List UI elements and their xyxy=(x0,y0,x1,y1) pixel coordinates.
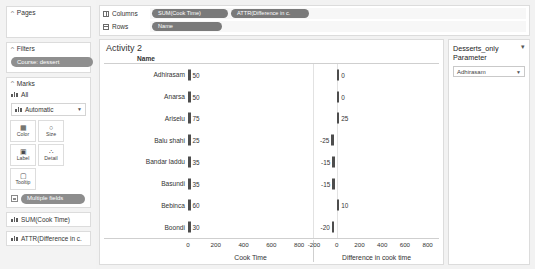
pages-card: ^ Pages xyxy=(6,6,91,38)
bar-value-label: 0 xyxy=(341,93,345,100)
axes-container: 0200400600800Cook Time-2000200400600800D… xyxy=(188,240,439,262)
measure-pill-sum-cook-time[interactable]: SUM(Cook Time) xyxy=(6,212,91,227)
axis-tick: 0 xyxy=(335,241,338,248)
bar[interactable] xyxy=(337,91,340,102)
filters-label: Filters xyxy=(17,45,35,52)
bar-row[interactable]: 0 xyxy=(314,86,439,108)
bar[interactable] xyxy=(188,178,191,189)
marks-tooltip-button[interactable]: ▢ Tooltip xyxy=(10,168,36,190)
measure-label: ATTR(Difference in c. xyxy=(21,235,82,242)
bar-row[interactable]: 0 xyxy=(314,64,439,86)
detail-field-icon xyxy=(11,195,18,202)
rows-pill-name[interactable]: Name xyxy=(152,22,222,30)
bar[interactable] xyxy=(337,200,340,211)
columns-pill-sum-cook-time[interactable]: SUM(Cook Time) xyxy=(152,9,228,17)
row-label: Adhirasam xyxy=(104,64,188,86)
bar[interactable] xyxy=(188,69,191,80)
parameter-panel: ▾ Desserts_only Parameter Adhirasam ▼ xyxy=(448,39,530,265)
bar[interactable] xyxy=(332,222,335,233)
bar-value-label: -15 xyxy=(321,158,330,165)
bar[interactable] xyxy=(332,156,335,167)
pages-drop-zone[interactable] xyxy=(7,18,90,37)
filters-drop-zone[interactable]: Course: dessert xyxy=(7,54,90,72)
marks-color-button[interactable]: ▦ Color xyxy=(10,120,36,142)
chart-body: AdhirasamAnarsaAriseluBalu shahiBandar l… xyxy=(104,64,439,238)
row-label: Bandar laddu xyxy=(104,151,188,173)
bar[interactable] xyxy=(188,135,191,146)
row-label: Basundi xyxy=(104,173,188,195)
bar-value-label: 35 xyxy=(193,180,200,187)
marks-multiple-fields-row[interactable]: Multiple fields xyxy=(7,192,90,207)
mark-type-dropdown[interactable]: Automatic ▼ xyxy=(11,103,86,116)
bar-value-label: 25 xyxy=(341,115,348,122)
axis-tick: -200 xyxy=(308,241,320,248)
chevron-up-icon: ^ xyxy=(11,46,14,52)
visualization-pane: Activity 2 Name AdhirasamAnarsaAriseluBa… xyxy=(99,39,444,265)
bar-row[interactable]: -20 xyxy=(314,216,439,238)
measure-label: SUM(Cook Time) xyxy=(21,216,70,223)
marks-card-header[interactable]: ^ Marks xyxy=(7,78,90,89)
bar-row[interactable]: 50 xyxy=(188,86,313,108)
chevron-up-icon: ^ xyxy=(11,10,14,16)
bar-row[interactable]: 25 xyxy=(188,129,313,151)
marks-detail-button[interactable]: ∴ Detail xyxy=(38,144,64,166)
bar-chart-icon xyxy=(11,235,18,241)
marks-color-label: Color xyxy=(17,132,29,137)
bar-row[interactable]: 25 xyxy=(314,108,439,130)
bar-row[interactable]: 35 xyxy=(188,173,313,195)
bar-value-label: 60 xyxy=(193,202,200,209)
rows-icon xyxy=(103,24,109,30)
label-icon: ▣ xyxy=(20,148,27,155)
pages-card-header[interactable]: ^ Pages xyxy=(7,7,90,18)
bar[interactable] xyxy=(331,135,334,146)
bar-value-label: 30 xyxy=(193,224,200,231)
bar-row[interactable]: 60 xyxy=(188,195,313,217)
bar-row[interactable]: 10 xyxy=(314,195,439,217)
parameter-menu-icon[interactable]: ▾ xyxy=(521,43,525,50)
columns-pill-attr-difference[interactable]: ATTR(Difference in c. xyxy=(231,9,309,17)
measure-pill-attr-difference[interactable]: ATTR(Difference in c. xyxy=(6,231,91,246)
color-icon: ▦ xyxy=(20,124,27,131)
bar-value-label: -25 xyxy=(320,137,329,144)
header-spacer xyxy=(188,55,439,63)
bar[interactable] xyxy=(188,200,191,211)
row-label: Bebinca xyxy=(104,195,188,217)
chevron-down-icon: ▼ xyxy=(77,106,82,112)
pill-multiple-fields[interactable]: Multiple fields xyxy=(21,194,85,204)
tooltip-icon: ▢ xyxy=(20,172,27,179)
marks-label-button[interactable]: ▣ Label xyxy=(10,144,36,166)
parameter-dropdown[interactable]: Adhirasam ▼ xyxy=(453,66,525,77)
bar-row[interactable]: 30 xyxy=(188,216,313,238)
bar[interactable] xyxy=(337,69,340,80)
mark-property-buttons: ▦ Color ○ Size ▣ Label ∴ Detail ▢ Tool xyxy=(7,119,90,192)
bar[interactable] xyxy=(188,113,191,124)
x-axis: -2000200400600800Difference in cook time xyxy=(313,240,439,262)
row-labels: AdhirasamAnarsaAriseluBalu shahiBandar l… xyxy=(104,64,188,238)
bar[interactable] xyxy=(332,178,335,189)
marks-label: Marks xyxy=(17,80,35,87)
marks-card: ^ Marks All Automatic ▼ ▦ Color ○ Size xyxy=(6,77,91,208)
marks-size-button[interactable]: ○ Size xyxy=(38,120,64,142)
bar[interactable] xyxy=(188,91,191,102)
bar[interactable] xyxy=(188,222,191,233)
marks-all-row[interactable]: All xyxy=(7,89,90,100)
filter-pill-course[interactable]: Course: dessert xyxy=(11,57,93,67)
bar[interactable] xyxy=(188,156,191,167)
rows-drop-zone[interactable]: Name xyxy=(150,21,526,32)
bar-row[interactable]: -15 xyxy=(314,173,439,195)
bar-row[interactable]: 75 xyxy=(188,108,313,130)
size-icon: ○ xyxy=(49,124,53,131)
filters-card: ^ Filters Course: dessert xyxy=(6,42,91,73)
filters-card-header[interactable]: ^ Filters xyxy=(7,43,90,54)
parameter-selected-value: Adhirasam xyxy=(457,69,486,75)
bar[interactable] xyxy=(337,113,340,124)
bar-row[interactable]: 35 xyxy=(188,151,313,173)
bar-value-label: 50 xyxy=(193,71,200,78)
columns-label-text: Columns xyxy=(112,10,138,17)
axis-tick: 0 xyxy=(186,241,189,248)
bar-row[interactable]: -25 xyxy=(314,129,439,151)
bar-row[interactable]: -15 xyxy=(314,151,439,173)
chart-panes: 50507525353560300025-25-15-1510-20 xyxy=(188,64,439,238)
bar-row[interactable]: 50 xyxy=(188,64,313,86)
columns-drop-zone[interactable]: SUM(Cook Time) ATTR(Difference in c. xyxy=(150,8,526,19)
